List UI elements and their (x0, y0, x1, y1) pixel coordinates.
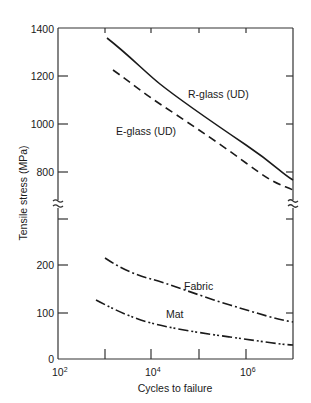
y-ticks-right (286, 76, 293, 313)
y-tick-labels: 1400 1200 1000 800 200 100 0 (31, 23, 55, 365)
x-axis-title: Cycles to failure (138, 382, 213, 394)
y-tick-200: 200 (36, 259, 54, 271)
y-tick-100: 100 (36, 307, 54, 319)
x-ticks-bottom (105, 349, 246, 359)
label-r-glass: R-glass (UD) (188, 88, 249, 100)
y-tick-1400: 1400 (31, 23, 55, 35)
label-fabric: Fabric (184, 280, 213, 292)
x-ticks-top (105, 28, 246, 33)
label-e-glass: E-glass (UD) (116, 125, 176, 137)
x-tick-1e6: 106 (240, 366, 256, 378)
fatigue-chart: 1400 1200 1000 800 200 100 0 102 104 106… (0, 0, 311, 403)
y-tick-1000: 1000 (31, 118, 55, 130)
axis-break-left-icon (53, 200, 63, 208)
x-tick-labels: 102 104 106 (52, 366, 256, 378)
y-axis-title: Tensile stress (MPa) (17, 145, 29, 240)
x-tick-1e4: 104 (145, 366, 161, 378)
series-r-glass (107, 38, 293, 180)
y-tick-800: 800 (36, 166, 54, 178)
label-mat: Mat (166, 308, 184, 320)
axis-break-right-icon (288, 200, 298, 208)
series-mat (96, 300, 293, 345)
y-ticks-left (58, 76, 68, 313)
y-tick-0: 0 (48, 353, 54, 365)
y-tick-1200: 1200 (31, 70, 55, 82)
x-tick-1e2: 102 (52, 366, 68, 378)
